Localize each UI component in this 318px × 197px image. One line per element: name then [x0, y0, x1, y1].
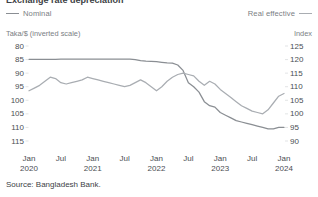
chart-plot-area: 80859095100105110115 1251201151101051009…: [0, 38, 318, 156]
line-swatch-icon: [6, 13, 19, 14]
x-tick-label-month: Jan: [214, 154, 227, 163]
left-tick-label: 115: [11, 137, 24, 146]
x-tick-label-month: Jul: [183, 154, 193, 163]
source-note: Source: Bangladesh Bank.: [6, 180, 101, 189]
x-tick-label-year: 2020: [20, 164, 38, 173]
x-tick-label-month: Jan: [278, 154, 291, 163]
legend-item-nominal: Nominal: [6, 9, 52, 18]
series-line-real-effective: [29, 73, 284, 114]
x-tick-label-year: 2024: [275, 164, 293, 173]
left-tick-label: 95: [15, 82, 24, 91]
right-tick-label: 105: [290, 96, 304, 105]
left-tick-label: 80: [15, 42, 24, 51]
left-tick-label: 110: [11, 123, 24, 132]
right-tick-label: 100: [290, 109, 304, 118]
chart-legend: Nominal Real effective: [6, 9, 312, 21]
exchange-rate-chart-figure: Exchange rate depreciation Nominal Real …: [0, 0, 318, 197]
legend-label-real-effective: Real effective: [248, 9, 295, 18]
right-tick-label: 90: [290, 137, 299, 146]
left-tick-label: 85: [15, 55, 24, 64]
left-axis-unit-label: Taka/$ (inverted scale): [6, 29, 80, 38]
x-tick-label-month: Jul: [247, 154, 257, 163]
left-axis-ticks: 80859095100105110115: [11, 42, 29, 146]
right-tick-label: 125: [290, 42, 304, 51]
legend-item-real-effective: Real effective: [248, 9, 312, 18]
right-axis-unit-label: Index: [294, 29, 312, 38]
left-tick-label: 105: [11, 109, 25, 118]
legend-label-nominal: Nominal: [23, 9, 52, 18]
x-tick-label-month: Jul: [120, 154, 130, 163]
line-swatch-icon: [299, 13, 312, 14]
x-tick-label-year: 2022: [148, 164, 166, 173]
right-tick-label: 110: [290, 82, 303, 91]
series-line-nominal: [29, 59, 284, 129]
x-tick-label-month: Jul: [56, 154, 66, 163]
x-tick-label-month: Jan: [150, 154, 163, 163]
right-tick-label: 120: [290, 55, 304, 64]
left-tick-label: 100: [11, 96, 25, 105]
chart-title: Exchange rate depreciation: [6, 0, 306, 7]
right-tick-label: 115: [290, 69, 303, 78]
x-tick-label-month: Jan: [86, 154, 99, 163]
x-axis-ticks: Jan2020JulJan2021JulJan2022JulJan2023Jul…: [20, 154, 293, 173]
right-tick-label: 95: [290, 123, 299, 132]
x-tick-label-month: Jan: [23, 154, 36, 163]
right-axis-ticks: 1251201151101051009590: [285, 42, 304, 146]
x-tick-label-year: 2023: [211, 164, 229, 173]
x-tick-label-year: 2021: [84, 164, 102, 173]
left-tick-label: 90: [15, 69, 24, 78]
x-axis: Jan2020JulJan2021JulJan2022JulJan2023Jul…: [0, 152, 318, 180]
series-lines: [29, 59, 284, 129]
